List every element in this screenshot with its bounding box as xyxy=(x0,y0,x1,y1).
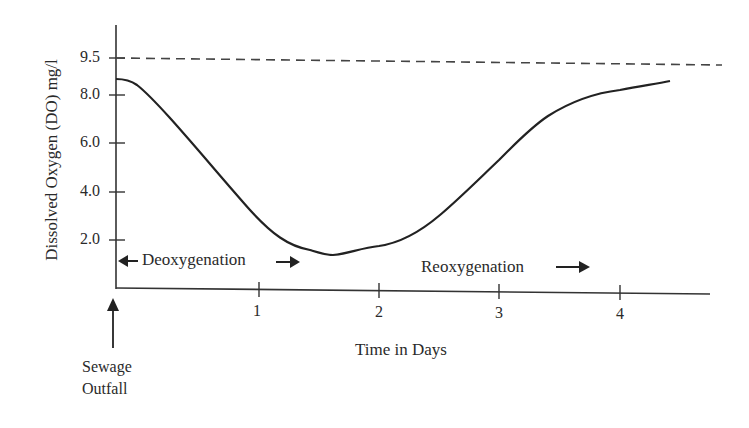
sewage-outfall-line2: Outfall xyxy=(82,378,132,400)
reoxygenation-right-arrow-icon xyxy=(556,261,590,273)
sewage-outfall-line1: Sewage xyxy=(82,356,132,378)
y-axis-title: Dissolved Oxygen (DO) mg/l xyxy=(42,59,62,261)
y-ticks xyxy=(109,58,125,240)
x-axis xyxy=(116,288,710,294)
sewage-outfall-label: Sewage Outfall xyxy=(82,356,132,400)
reoxygenation-label: Reoxygenation xyxy=(421,257,524,277)
x-tick-label-3: 3 xyxy=(489,304,509,322)
y-tick-label-4-0: 4.0 xyxy=(60,182,100,200)
sewage-outfall-arrow-icon xyxy=(107,298,119,348)
saturation-dashed-line xyxy=(116,58,722,65)
x-tick-label-2: 2 xyxy=(369,303,389,321)
x-tick-label-4: 4 xyxy=(610,305,630,323)
do-sag-curve xyxy=(116,79,670,255)
y-tick-label-2-0: 2.0 xyxy=(60,230,100,248)
deoxygenation-right-arrow-icon xyxy=(276,256,300,268)
deoxygenation-label: Deoxygenation xyxy=(142,250,246,270)
y-tick-label-8-0: 8.0 xyxy=(60,85,100,103)
x-axis-title: Time in Days xyxy=(355,340,447,360)
deoxygenation-left-arrow-icon xyxy=(118,255,138,267)
y-tick-label-9-5: 9.5 xyxy=(60,48,100,66)
y-tick-label-6-0: 6.0 xyxy=(60,133,100,151)
x-tick-label-1: 1 xyxy=(247,302,267,320)
